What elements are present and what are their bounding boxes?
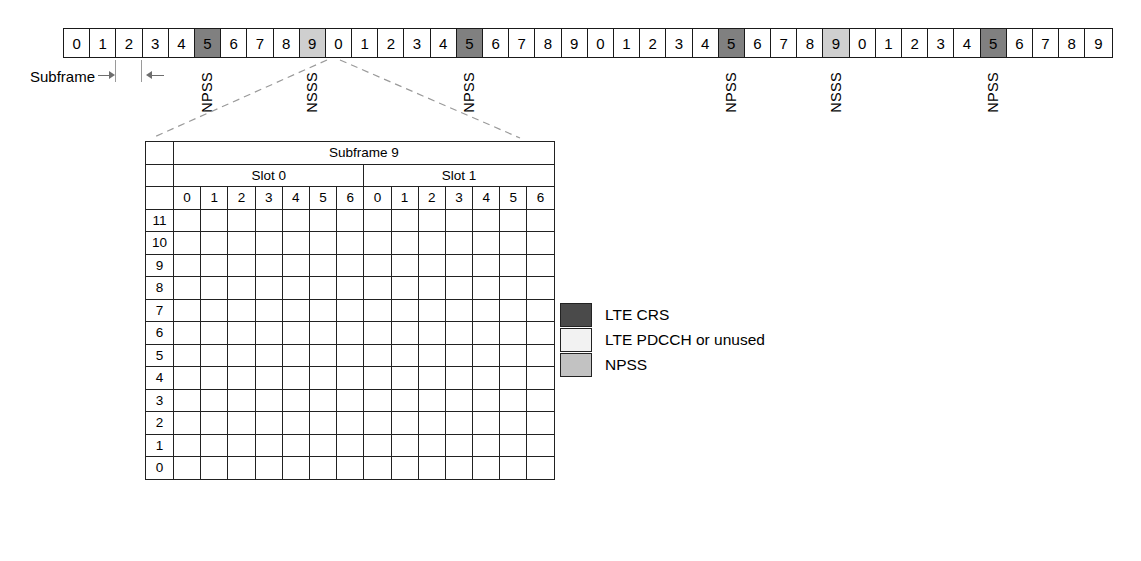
signal-marker-npss: NPSS [199,72,215,113]
subcarrier-label: 3 [146,389,174,412]
subframe-arrow-line-right [152,75,164,76]
resource-element-npss [255,412,282,435]
subframe-cell: 8 [1059,29,1085,57]
resource-element-crs [282,412,309,435]
resource-element-pdcch [228,344,255,367]
resource-element-crs [174,209,201,232]
resource-element-npss [255,434,282,457]
resource-element-npss [255,344,282,367]
signal-marker-nsss: NSSS [828,72,844,113]
grid-row: 6 [146,322,555,345]
subframe-tick-left [115,60,116,82]
resource-element-pdcch [201,232,228,255]
subframe-cell: 5 [981,29,1007,57]
subframe-cell: 6 [483,29,509,57]
resource-element-npss [445,299,472,322]
resource-element-crs [473,412,500,435]
subframe-cell: 3 [143,29,169,57]
resource-element-npss [445,367,472,390]
resource-element-npss [418,209,445,232]
resource-element-npss [255,209,282,232]
resource-element-npss [282,299,309,322]
resource-element-npss [445,434,472,457]
subframe-cell: 0 [588,29,614,57]
resource-element-npss [282,232,309,255]
resource-element-npss [473,299,500,322]
grid-row: 7 [146,299,555,322]
resource-element-crs [391,209,418,232]
resource-element-npss [309,389,336,412]
resource-element-pdcch [174,367,201,390]
subframe-cell: 5 [719,29,745,57]
resource-element-crs [473,277,500,300]
grid-row: 4 [146,367,555,390]
resource-element-npss [527,277,554,300]
subcarrier-label: 1 [146,434,174,457]
resource-element-npss [364,299,391,322]
resource-element-npss [391,457,418,480]
subframe-strip: 0123456789012345678901234567890123456789 [63,28,1113,58]
subframe-cell: 1 [876,29,902,57]
resource-element-npss [282,434,309,457]
subframe-cell: 6 [745,29,771,57]
resource-element-npss [337,367,364,390]
resource-element-npss [364,322,391,345]
resource-element-npss [500,412,527,435]
resource-element-npss [255,457,282,480]
resource-element-npss [527,457,554,480]
subframe-cell: 1 [90,29,116,57]
signal-marker-nsss: NSSS [304,72,320,113]
subframe-cell: 1 [352,29,378,57]
resource-element-npss [309,277,336,300]
resource-element-npss [527,322,554,345]
grid-row: 3 [146,389,555,412]
resource-element-crs [201,209,228,232]
legend-label: LTE CRS [605,306,669,324]
resource-element-pdcch [228,367,255,390]
resource-element-npss [391,367,418,390]
subframe-cell: 7 [1033,29,1059,57]
resource-element-npss [309,232,336,255]
grid-row: 0 [146,457,555,480]
symbol-number: 2 [418,187,445,210]
resource-element-crs [282,344,309,367]
resource-element-npss [527,367,554,390]
grid-row: 11 [146,209,555,232]
resource-element-npss [473,232,500,255]
subframe-cell: 2 [902,29,928,57]
signal-marker-npss: NPSS [723,72,739,113]
resource-element-npss [527,344,554,367]
resource-element-npss [445,254,472,277]
slot-header: Slot 0 [174,164,364,187]
legend-item: LTE PDCCH or unused [560,327,765,352]
resource-element-npss [500,299,527,322]
resource-element-npss [282,457,309,480]
grid-row: 1 [146,434,555,457]
resource-element-pdcch [174,232,201,255]
resource-element-pdcch [174,389,201,412]
resource-element-npss [500,209,527,232]
symbol-number: 0 [174,187,201,210]
resource-element-npss [418,344,445,367]
resource-element-npss [364,389,391,412]
resource-element-npss [391,232,418,255]
slot-header: Slot 1 [364,164,554,187]
resource-element-crs [282,209,309,232]
subframe-cell: 0 [326,29,352,57]
resource-element-pdcch [228,254,255,277]
subframe-cell: 9 [823,29,849,57]
legend-label: LTE PDCCH or unused [605,331,765,349]
resource-element-pdcch [174,457,201,480]
resource-element-npss [364,434,391,457]
symbol-number: 6 [527,187,554,210]
resource-element-npss [337,254,364,277]
grid-row: 2 [146,412,555,435]
symbol-number: 4 [473,187,500,210]
symbol-number: 1 [201,187,228,210]
symbol-number: 1 [391,187,418,210]
subframe-cell: 1 [614,29,640,57]
resource-element-crs [201,344,228,367]
resource-element-npss [255,322,282,345]
resource-element-pdcch [228,412,255,435]
resource-element-npss [418,434,445,457]
